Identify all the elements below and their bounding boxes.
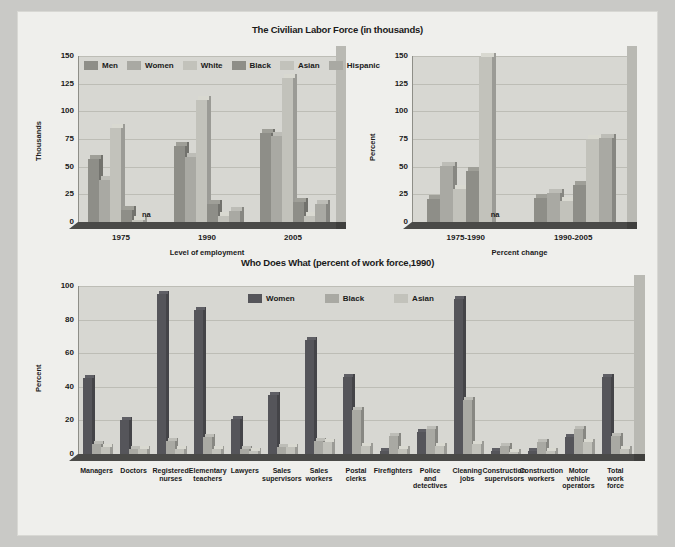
bar-asian xyxy=(509,452,518,454)
y-axis-tick: 100 xyxy=(44,282,74,290)
bar-black xyxy=(129,449,138,454)
gridline xyxy=(79,286,634,287)
bar-black xyxy=(574,429,583,454)
plot-side-wall xyxy=(634,275,645,454)
floor-slab xyxy=(78,454,634,461)
bar-women xyxy=(305,340,314,454)
bar-asian xyxy=(323,442,332,454)
bar-men xyxy=(427,199,440,222)
legend-chart1: MenWomenWhiteBlackAsianHispanic xyxy=(84,61,389,70)
gridline xyxy=(413,111,627,112)
bar-women xyxy=(271,136,282,222)
na-annotation: na xyxy=(142,210,151,219)
chart-percent-change: 0255075100125150Percentna1975-19901990-2… xyxy=(366,42,651,257)
bar-asian xyxy=(620,449,629,454)
x-axis-tick-line: clerks xyxy=(331,475,380,483)
legend-label: Women xyxy=(266,294,295,303)
legend-label: Black xyxy=(250,61,271,70)
x-axis-tick-line: detectives xyxy=(406,482,455,490)
bar-asian xyxy=(132,220,143,222)
x-axis-tick-line: 1975-1990 xyxy=(406,234,526,243)
bar-women xyxy=(440,166,453,222)
bar-asian xyxy=(472,444,481,454)
y-axis-tick: 75 xyxy=(44,135,74,143)
y-axis-tick: 60 xyxy=(44,349,74,357)
legend-item-black: Black xyxy=(232,61,271,70)
bar-women xyxy=(380,451,389,454)
y-axis-tick: 50 xyxy=(378,163,408,171)
y-axis-tick: 100 xyxy=(378,107,408,115)
y-axis-label: Percent xyxy=(34,364,43,392)
x-axis-tick-line: Total xyxy=(591,467,640,475)
x-axis-tick-line: 1975 xyxy=(72,234,170,243)
x-axis-tick-line: 1990-2005 xyxy=(514,234,634,243)
y-axis-tick: 25 xyxy=(378,190,408,198)
bar-men xyxy=(174,146,185,222)
x-axis-tick: Totalworkforce xyxy=(591,467,640,490)
bar-asian xyxy=(212,449,221,454)
floor-right-face xyxy=(627,222,637,229)
bar-white xyxy=(196,100,207,222)
x-axis-tick: 1990-2005 xyxy=(514,234,634,243)
bar-women xyxy=(343,377,352,454)
bar-asian xyxy=(286,447,295,454)
legend-chart3: WomenBlackAsian xyxy=(248,294,464,303)
legend-swatch-women xyxy=(127,61,141,70)
x-axis-tick: 1975-1990 xyxy=(406,234,526,243)
y-axis-tick: 150 xyxy=(378,52,408,60)
bar-asian xyxy=(138,449,147,454)
x-axis-tick-line: work xyxy=(591,475,640,483)
bar-side-face xyxy=(166,291,169,454)
bar-white xyxy=(453,189,466,222)
bar-women xyxy=(231,419,240,454)
bar-asian xyxy=(586,139,599,222)
bar-men xyxy=(260,133,271,222)
bar-black xyxy=(389,436,398,454)
chart-page: The Civilian Labor Force (in thousands) … xyxy=(18,12,657,535)
gridline xyxy=(413,56,627,57)
legend-swatch-black xyxy=(232,61,246,70)
legend-label: Black xyxy=(343,294,364,303)
bar-women xyxy=(194,310,203,454)
legend-swatch-men xyxy=(84,61,98,70)
bar-white xyxy=(110,128,121,222)
x-axis-tick-line: 1990 xyxy=(158,234,256,243)
gridline xyxy=(413,84,627,85)
y-axis-tick: 75 xyxy=(378,135,408,143)
bar-side-face xyxy=(203,307,206,454)
bar-women xyxy=(120,420,129,454)
floor-left-corner xyxy=(403,222,412,229)
floor-left-corner xyxy=(69,222,78,229)
bar-men xyxy=(88,159,99,222)
y-axis-tick: 100 xyxy=(44,107,74,115)
bar-white xyxy=(282,78,293,222)
bar-black xyxy=(166,441,175,454)
bar-white xyxy=(560,201,573,222)
floor-right-face xyxy=(336,222,346,229)
bar-asian xyxy=(479,57,492,222)
x-axis-label: Percent change xyxy=(412,248,627,257)
bar-black xyxy=(121,210,132,222)
bottom-chart-title: Who Does What (percent of work force,199… xyxy=(18,257,657,268)
gridline xyxy=(79,84,336,85)
legend-swatch-asian xyxy=(394,294,408,303)
bar-black xyxy=(500,446,509,454)
legend-swatch-hispanic xyxy=(329,61,343,70)
bar-black xyxy=(466,171,479,222)
bar-asian xyxy=(361,446,370,454)
bar-black xyxy=(463,400,472,454)
bar-black xyxy=(573,185,586,222)
y-axis-tick: 50 xyxy=(44,163,74,171)
legend-swatch-white xyxy=(183,61,197,70)
bar-side-face xyxy=(612,134,616,222)
legend-swatch-women xyxy=(248,294,262,303)
x-axis-label: Level of employment xyxy=(78,248,336,257)
plot-side-wall xyxy=(627,46,637,222)
legend-swatch-black xyxy=(325,294,339,303)
y-axis-tick: 20 xyxy=(44,416,74,424)
floor-slab xyxy=(78,222,336,229)
bar-black xyxy=(611,436,620,454)
chart-civilian-labor-force-level: 0255075100125150Thousandsna197519902005L… xyxy=(32,42,352,257)
legend-label: Men xyxy=(102,61,118,70)
y-axis-tick: 80 xyxy=(44,316,74,324)
